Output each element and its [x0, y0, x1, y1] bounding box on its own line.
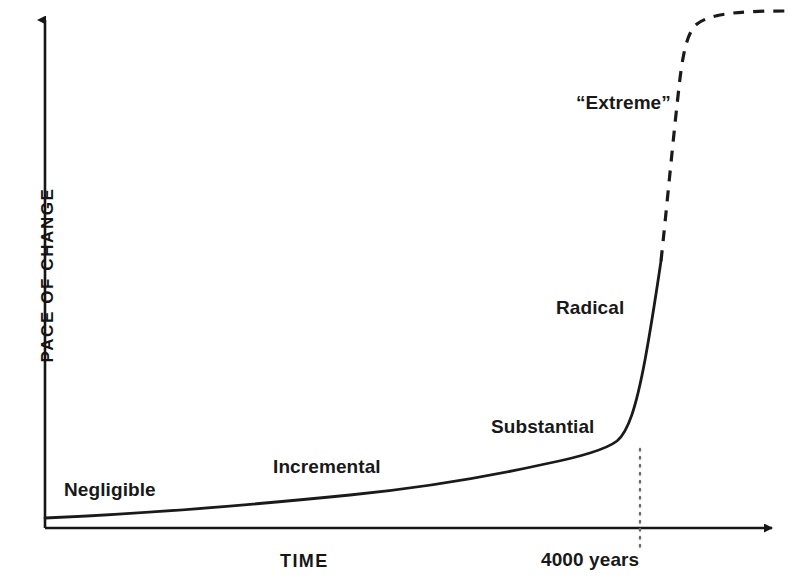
- annotation-negligible: Negligible: [64, 479, 156, 501]
- x-axis-tick-label-4000-years: 4000 years: [541, 549, 639, 571]
- pace-of-change-chart: PACE OF CHANGE TIME 4000 years Negligibl…: [0, 0, 792, 578]
- annotation-substantial: Substantial: [491, 416, 595, 438]
- x-axis-title: TIME: [280, 551, 329, 572]
- curve-dashed-projected: [661, 11, 785, 261]
- annotation-incremental: Incremental: [273, 456, 381, 478]
- annotation-extreme: “Extreme”: [576, 92, 671, 114]
- y-axis-title: PACE OF CHANGE: [38, 175, 58, 375]
- annotation-radical: Radical: [556, 297, 624, 319]
